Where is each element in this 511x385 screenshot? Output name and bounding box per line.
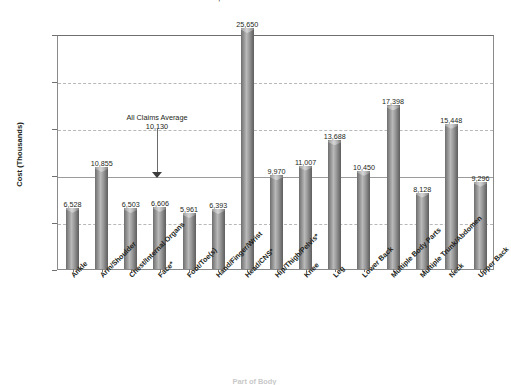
bar-value-label: 11,007 — [283, 158, 329, 167]
bar-value-label: 15,448 — [428, 116, 474, 125]
bar — [95, 167, 108, 269]
bar-value-label: 10,450 — [341, 163, 387, 172]
bar — [183, 213, 196, 269]
y-axis-tick-mark — [52, 270, 57, 271]
bar-value-label: 17,398 — [370, 97, 416, 106]
bar — [66, 208, 79, 269]
gridline — [58, 83, 493, 84]
bar — [212, 209, 225, 269]
bar-value-label: 8,128 — [399, 185, 445, 194]
y-axis-title: Cost (Thousands) — [15, 100, 24, 210]
bar-value-label: 9,296 — [457, 174, 503, 183]
bar-value-label: 6,393 — [195, 201, 241, 210]
bar-value-label: 13,688 — [312, 132, 358, 141]
bar — [357, 171, 370, 269]
average-annotation-line1: All Claims Average — [96, 113, 218, 122]
average-annotation-arrow-head — [152, 172, 162, 178]
bar-value-label: 9,970 — [254, 167, 300, 176]
bar — [328, 140, 341, 269]
bar-value-label: 6,528 — [50, 200, 96, 209]
bar-value-label: 10,855 — [79, 159, 125, 168]
bar — [416, 193, 429, 269]
x-axis-title: Part of Body — [0, 377, 509, 385]
average-annotation-arrow-line — [157, 128, 158, 174]
bar-value-label: 25,650 — [224, 20, 270, 29]
bar — [241, 28, 254, 269]
